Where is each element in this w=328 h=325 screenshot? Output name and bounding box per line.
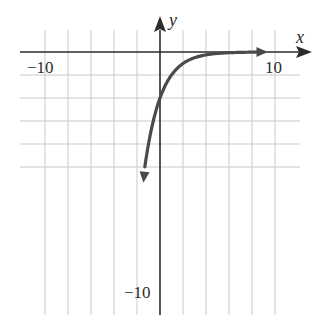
- x-tick-max: 10: [265, 58, 282, 77]
- x-axis-label: x: [295, 27, 304, 47]
- axes: x y −10 10 −10: [20, 10, 312, 315]
- y-axis-arrow-icon: [154, 16, 166, 32]
- curve-arrow-down-icon: [140, 171, 150, 182]
- y-axis-label: y: [167, 10, 177, 30]
- graph: x y −10 10 −10: [0, 0, 328, 325]
- curve-line: [145, 52, 264, 167]
- x-tick-min: −10: [27, 58, 54, 77]
- curve-arrow-right-icon: [256, 47, 267, 57]
- curve-series: [140, 47, 268, 183]
- y-tick-min: −10: [124, 283, 151, 302]
